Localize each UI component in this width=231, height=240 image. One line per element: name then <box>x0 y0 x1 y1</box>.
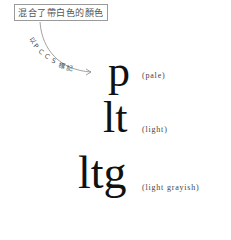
arrow-label-char: 記 <box>66 63 74 73</box>
arrow-label-char: C <box>43 52 51 61</box>
tone-name-light: (light) <box>142 125 168 134</box>
tone-name-light-grayish: (light grayish) <box>142 183 200 192</box>
tone-abbr-ltg: ltg <box>78 150 127 196</box>
tone-abbr-p: p <box>108 50 130 94</box>
arrow-label-char: S <box>50 57 57 66</box>
tone-abbr-lt: lt <box>103 96 127 140</box>
tone-name-pale: (pale) <box>142 71 165 80</box>
